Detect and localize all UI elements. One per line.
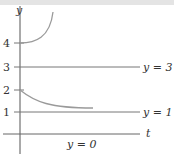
equilibrium-label-y0: y = 0 <box>66 138 96 151</box>
curve-from-4 <box>20 12 53 43</box>
phase-diagram: y t 4 3 2 1 y = 3 y = 1 y = 0 <box>0 0 174 154</box>
equilibrium-label-y1: y = 1 <box>142 106 172 119</box>
y-axis-label: y <box>15 4 23 17</box>
curve-from-2 <box>20 90 93 108</box>
equilibrium-label-y3: y = 3 <box>142 61 172 74</box>
tick-label-2: 2 <box>3 84 10 97</box>
tick-label-3: 3 <box>3 61 10 74</box>
tick-label-1: 1 <box>3 106 10 119</box>
t-axis-label: t <box>146 127 151 140</box>
tick-label-4: 4 <box>3 37 10 50</box>
